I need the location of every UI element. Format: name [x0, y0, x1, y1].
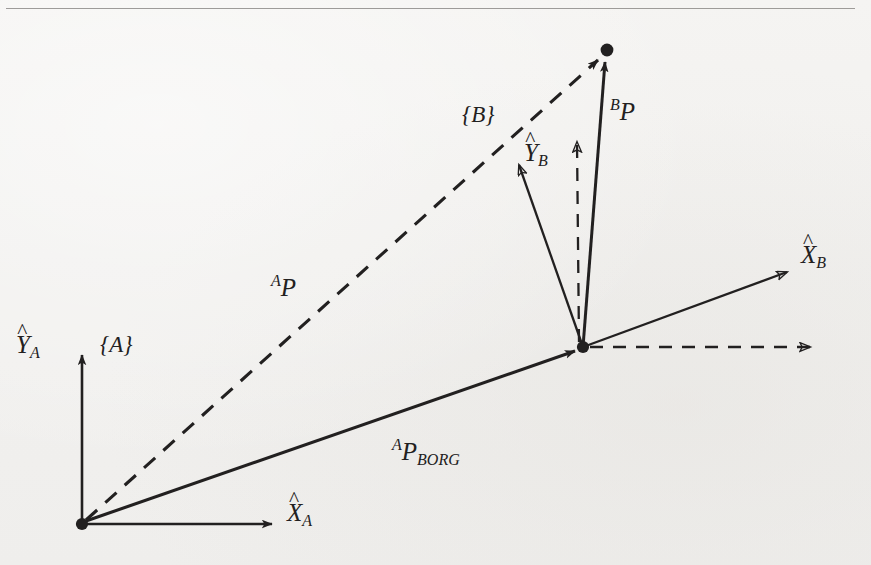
- frame-a-label: {A}: [100, 333, 132, 356]
- hat-accent-y-a: ^: [17, 321, 27, 343]
- axis-x-b-line: [583, 272, 787, 347]
- hat-accent-x-a: ^: [289, 489, 299, 511]
- hat-accent-y-b: ^: [525, 129, 535, 151]
- frame-b-label: {B}: [462, 103, 494, 126]
- axis-y-b-label: ^YB: [524, 140, 548, 169]
- vector-bp-label: BP: [610, 97, 635, 124]
- translated-axis-y-a-line: [577, 142, 579, 342]
- axis-x-b-label: ^XB: [801, 242, 826, 271]
- vector-ap-line: [86, 60, 598, 520]
- axis-x-a-label: ^XA: [287, 500, 312, 529]
- vector-bp-line: [583, 62, 605, 347]
- point-p-dot: [601, 44, 614, 57]
- vector-ap-borg-line: [86, 351, 575, 521]
- axis-y-a-label: ^YA: [16, 332, 40, 361]
- vector-ap-label: AP: [271, 273, 296, 300]
- origin-a-dot: [76, 518, 88, 530]
- vector-diagram: [0, 0, 871, 565]
- hat-accent-x-b: ^: [803, 231, 813, 253]
- vector-ap-borg-label: APBORG: [392, 437, 460, 468]
- origin-b-dot: [577, 341, 589, 353]
- axis-y-b-line: [519, 165, 583, 347]
- figure-canvas: {A} {B} ^YA ^XA ^XB ^YB AP BP APBORG: [0, 0, 871, 565]
